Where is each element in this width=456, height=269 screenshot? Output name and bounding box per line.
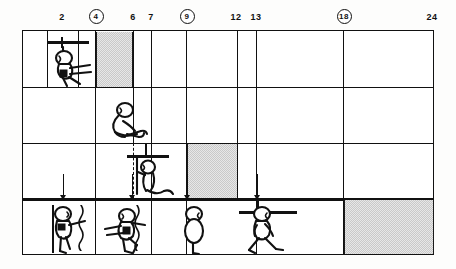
figure-kneeling-pull-up <box>131 158 183 198</box>
entry-arrow-2 <box>63 174 64 199</box>
figure-sitting-unsupported <box>103 101 153 143</box>
wavy-drop-line-b <box>133 205 135 251</box>
shaded-band-4-to-6 <box>95 32 133 87</box>
shaded-band-18-to-24 <box>343 200 434 254</box>
axis-tick-7: 7 <box>148 12 154 22</box>
column-line-1-row1 <box>47 31 48 87</box>
axis-tick-18: 18 <box>337 9 352 24</box>
push-rail-row4 <box>239 211 297 214</box>
entry-arrow-13 <box>257 174 258 199</box>
timeline-axis: 2467912131824 <box>0 0 456 30</box>
column-line-18-full <box>343 31 344 254</box>
support-rail-row1-post <box>61 37 63 48</box>
axis-tick-2: 2 <box>59 12 65 22</box>
axis-tick-4: 4 <box>89 9 104 24</box>
column-line-2-row1 <box>78 31 79 87</box>
milestone-timeline-figure: 2467912131824 <box>0 0 456 269</box>
vertical-support-rail-row4 <box>52 205 54 253</box>
row-separator-1 <box>23 87 433 88</box>
column-line-12-r123 <box>237 31 238 199</box>
axis-tick-24: 24 <box>426 12 437 22</box>
column-line-4-full <box>95 31 96 254</box>
entry-arrow-7 <box>132 174 133 199</box>
timeline-grid <box>22 30 434 255</box>
wavy-drop-line-a <box>77 205 79 251</box>
column-line-13-full <box>256 31 257 254</box>
shaded-band-9-to-12 <box>186 144 238 198</box>
support-rail-row3-post <box>145 144 147 158</box>
push-rail-row4-post <box>257 201 259 214</box>
entry-arrow-9 <box>187 174 188 199</box>
column-line-9-full <box>186 31 187 254</box>
axis-tick-9: 9 <box>180 9 195 24</box>
column-line-7-full <box>151 31 152 254</box>
support-rail-row3-main <box>127 155 169 158</box>
axis-tick-13: 13 <box>250 12 261 22</box>
support-rail-row1 <box>47 41 89 44</box>
figure-cruising-along-rail <box>51 205 99 255</box>
axis-tick-6: 6 <box>130 12 136 22</box>
column-line-6-row12 <box>133 31 134 143</box>
axis-tick-12: 12 <box>230 12 241 22</box>
